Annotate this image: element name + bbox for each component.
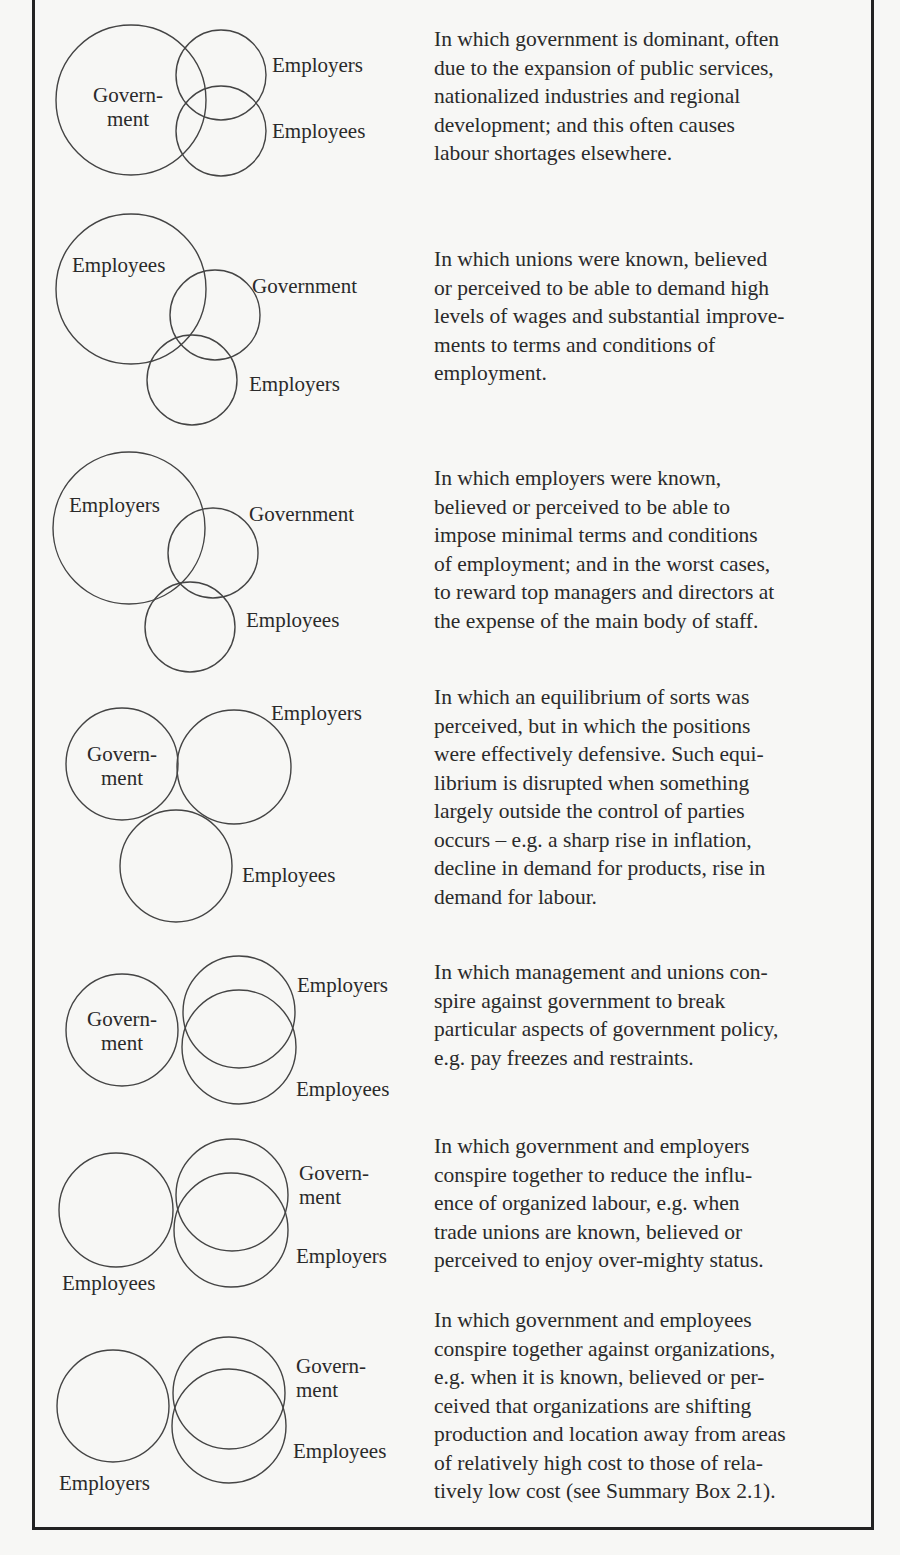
label-employers: Employers — [271, 701, 362, 725]
diagram-government-dominant: Govern- ment Employers Employees — [56, 25, 365, 176]
circle-government — [173, 1337, 285, 1449]
circle-employers — [147, 335, 237, 425]
diagram-management-unions-conspire: Govern- ment Employers Employees — [66, 956, 389, 1104]
diagram-government-employees-conspire: Employers Govern- ment Employees — [57, 1337, 386, 1495]
circle-employees — [59, 1153, 173, 1267]
label-government: Govern- — [87, 1007, 157, 1031]
diagram-government-employers-conspire: Employees Govern- ment Employers — [59, 1139, 387, 1295]
circle-employers — [183, 956, 295, 1068]
circle-employees — [56, 214, 206, 364]
label-government-2: ment — [296, 1378, 338, 1402]
diagram-unions-dominant: Employees Government Employers — [56, 214, 357, 425]
label-employers: Employers — [59, 1471, 150, 1495]
circle-employees — [182, 990, 296, 1104]
description-government-dominant: In which government is dominant, often d… — [434, 25, 854, 168]
label-employees: Employees — [296, 1077, 389, 1101]
label-employers: Employers — [249, 372, 340, 396]
label-government: Govern- — [87, 742, 157, 766]
circle-employees — [172, 1369, 286, 1483]
circle-employers — [174, 1173, 288, 1287]
label-employees: Employees — [72, 253, 165, 277]
circle-employers — [177, 710, 291, 824]
label-employers: Employers — [297, 973, 388, 997]
description-government-employees-conspire: In which government and employees conspi… — [434, 1306, 854, 1506]
label-employers: Employers — [272, 53, 363, 77]
label-employees: Employees — [272, 119, 365, 143]
label-government-2: ment — [107, 107, 149, 131]
circle-government — [176, 1139, 288, 1251]
label-government-2: ment — [101, 1031, 143, 1055]
label-employers: Employers — [296, 1244, 387, 1268]
circle-employers — [53, 452, 205, 604]
label-employees: Employees — [62, 1271, 155, 1295]
circle-employees — [145, 582, 235, 672]
description-employers-dominant: In which employers were known, believed … — [434, 464, 854, 635]
circle-employees — [120, 810, 232, 922]
label-government: Govern- — [299, 1161, 369, 1185]
circle-employers — [176, 30, 266, 120]
diagram-employers-dominant: Employers Government Employees — [53, 452, 354, 672]
circle-government — [168, 508, 258, 598]
description-unions-dominant: In which unions were known, believed or … — [434, 245, 854, 388]
description-equilibrium: In which an equilibrium of sorts was per… — [434, 683, 854, 911]
diagram-equilibrium: Govern- ment Employers Employees — [66, 701, 362, 922]
description-government-employers-conspire: In which government and employers conspi… — [434, 1132, 854, 1275]
label-employees: Employees — [246, 608, 339, 632]
label-government: Govern- — [93, 83, 163, 107]
description-management-unions-conspire: In which management and unions con- spir… — [434, 958, 854, 1072]
label-government-2: ment — [299, 1185, 341, 1209]
label-government-2: ment — [101, 766, 143, 790]
circle-employees — [176, 86, 266, 176]
label-employees: Employees — [242, 863, 335, 887]
label-government: Government — [249, 502, 354, 526]
label-government: Govern- — [296, 1354, 366, 1378]
circle-government — [170, 270, 260, 360]
label-employees: Employees — [293, 1439, 386, 1463]
circle-employers — [57, 1350, 169, 1462]
label-employers: Employers — [69, 493, 160, 517]
label-government: Government — [252, 274, 357, 298]
